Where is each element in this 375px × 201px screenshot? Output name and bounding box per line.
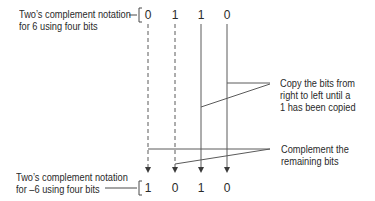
top-bit-3: 1 [195,8,207,22]
bottom-bit-4: 0 [221,181,233,195]
complement-annotation-line2: remaining bits [281,155,339,167]
complement-annotation-line1: Complement the [281,143,349,155]
bottom-bit-2: 0 [169,181,181,195]
top-notation-label-line1: Two’s complement notation [19,8,131,20]
top-bit-4: 0 [221,8,233,22]
top-notation-label-line2: for 6 using four bits [19,20,98,32]
complement-pointer-col2 [175,149,270,164]
top-bit-1: 0 [142,8,154,22]
top-bit-2: 1 [169,8,181,22]
bottom-bit-1: 1 [142,181,154,195]
bottom-notation-label-line2: for –6 using four bits [16,183,100,195]
copy-annotation-line3: 1 has been copied [280,101,356,113]
copy-pointer-col3 [201,84,270,107]
bottom-notation-label-line1: Two’s complement notation [16,171,128,183]
bottom-bit-3: 1 [195,181,207,195]
copy-annotation-line1: Copy the bits from [280,77,355,89]
copy-annotation-line2: right to left until a [280,89,350,101]
